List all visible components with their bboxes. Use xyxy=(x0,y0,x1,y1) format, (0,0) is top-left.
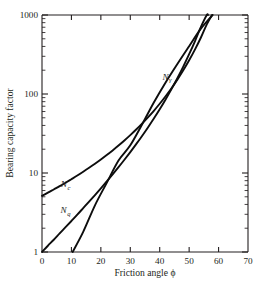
curve-label-Nq: Nq xyxy=(60,205,72,216)
curve-labels: NcNqNγ xyxy=(60,72,173,216)
bearing-capacity-chart: 010203040506070 1101001000 NcNqNγ Fricti… xyxy=(0,0,270,288)
y-axis-ticks xyxy=(42,15,248,252)
x-tick-label: 0 xyxy=(40,256,45,266)
y-tick-label: 1 xyxy=(33,247,38,257)
plot-axes xyxy=(42,15,248,252)
x-axis-title: Friction angle ϕ xyxy=(114,267,175,278)
x-tick-label: 70 xyxy=(243,256,253,266)
y-axis-tick-labels: 1101001000 xyxy=(20,10,39,257)
x-tick-label: 40 xyxy=(155,256,165,266)
x-tick-label: 10 xyxy=(67,256,77,266)
x-axis-ticks xyxy=(71,15,218,252)
curve-label-subscript: γ xyxy=(169,76,172,83)
y-tick-label: 100 xyxy=(24,89,38,99)
x-tick-label: 30 xyxy=(126,256,136,266)
curve-label-text: Nq xyxy=(60,205,72,216)
chart-figure: 010203040506070 1101001000 NcNqNγ Fricti… xyxy=(0,0,270,288)
y-tick-label: 10 xyxy=(29,168,39,178)
x-axis-tick-labels: 010203040506070 xyxy=(40,256,253,266)
curve-label-subscript: c xyxy=(67,184,70,191)
y-tick-label: 1000 xyxy=(20,10,39,20)
curve-Nc xyxy=(42,15,212,196)
y-axis-title: Bearing capacity factor xyxy=(4,87,15,177)
x-tick-label: 50 xyxy=(185,256,195,266)
x-tick-label: 60 xyxy=(214,256,224,266)
curve-label-subscript: q xyxy=(67,210,71,217)
x-tick-label: 20 xyxy=(96,256,106,266)
